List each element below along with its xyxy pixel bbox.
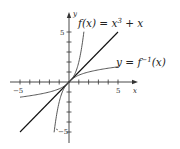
x-axis-arrow-icon: [132, 80, 138, 84]
y-axis-arrow-icon: [67, 12, 71, 18]
f-label: f(x) = x3 + x: [77, 17, 143, 29]
y-max-label: 5: [60, 29, 64, 37]
x-min-label: −5: [13, 87, 23, 95]
y-min-label: −5: [58, 128, 68, 136]
x-max-label: 5: [116, 87, 120, 95]
function-inverse-plot: x y −5 5 5 −5 f(x) = x3 + x y = f−1(x): [0, 0, 180, 149]
x-axis-label: x: [133, 87, 137, 95]
f-inverse-label: y = f−1(x): [115, 56, 166, 68]
